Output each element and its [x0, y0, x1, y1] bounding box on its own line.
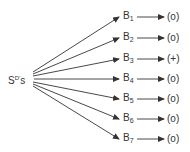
outcome-b3: (+)	[167, 54, 180, 64]
target-label: B	[123, 31, 130, 42]
outcome-b4: (o)	[167, 74, 179, 84]
arrow-s-b7	[33, 86, 119, 139]
outcome-b5: (o)	[167, 94, 179, 104]
outcome-b6: (o)	[167, 114, 179, 124]
target-subscript: 4	[130, 77, 134, 84]
target-subscript: 6	[130, 117, 134, 124]
target-node-b2: B2	[123, 32, 134, 45]
target-label: B	[123, 92, 130, 103]
arrow-s-b3	[33, 59, 119, 76]
target-node-b5: B5	[123, 93, 134, 106]
fan-arrows	[33, 17, 119, 139]
arrow-s-b6	[33, 84, 119, 119]
outcome-arrows	[137, 17, 164, 139]
arrow-s-b5	[33, 82, 119, 99]
source-node: SD's	[8, 73, 25, 86]
target-subscript: 1	[130, 15, 134, 22]
target-node-b1: B1	[123, 11, 134, 24]
target-node-b7: B7	[123, 133, 134, 146]
arrows-layer	[0, 0, 190, 152]
target-node-b6: B6	[123, 113, 134, 126]
outcome-b2: (o)	[167, 33, 179, 43]
target-subscript: 2	[130, 36, 134, 43]
source-suffix: s	[20, 75, 25, 86]
arrow-s-b1	[33, 17, 119, 72]
source-label: S	[8, 75, 15, 86]
diagram: SD's B1 B2 B3 B4 B5 B6 B7 (o) (o) (+) (o…	[0, 0, 190, 152]
target-subscript: 5	[130, 97, 134, 104]
target-label: B	[123, 72, 130, 83]
target-subscript: 3	[130, 57, 134, 64]
arrow-s-b2	[33, 38, 119, 74]
target-node-b4: B4	[123, 73, 134, 86]
target-node-b3: B3	[123, 53, 134, 66]
outcome-b1: (o)	[167, 12, 179, 22]
target-label: B	[123, 52, 130, 63]
target-subscript: 7	[130, 137, 134, 144]
target-label: B	[123, 132, 130, 143]
outcome-b7: (o)	[167, 134, 179, 144]
target-label: B	[123, 112, 130, 123]
target-label: B	[123, 10, 130, 21]
